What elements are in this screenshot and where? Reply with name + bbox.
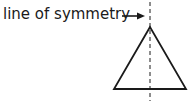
triangle-figure [0,0,194,103]
diagram-canvas: line of symmetry [0,0,194,103]
arrow-icon [122,13,145,20]
